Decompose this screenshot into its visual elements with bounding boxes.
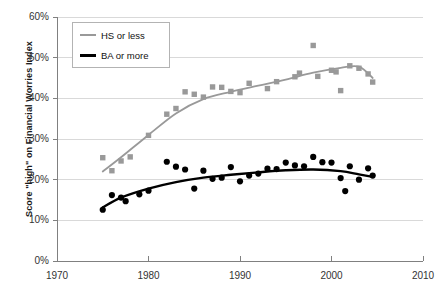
datapoints-ba-or-more: [100, 154, 376, 213]
legend-label-ba-or-more: BA or more: [101, 50, 149, 61]
x-axis-tick-label: 1980: [129, 271, 169, 281]
y-axis-tick-label: 30%: [15, 134, 49, 144]
x-axis-tick-label: 1970: [37, 271, 77, 281]
trendline-ba-or-more: [103, 169, 373, 207]
legend-label-hs-or-less: HS or less: [101, 30, 145, 41]
legend-line-icon-ba-or-more: [80, 54, 96, 57]
y-axis-tick-label: 10%: [15, 215, 49, 225]
y-axis-tick-label: 50%: [15, 53, 49, 63]
legend: HS or less BA or more: [72, 22, 170, 68]
y-axis-tick-label: 20%: [15, 175, 49, 185]
trendline-hs-or-less: [103, 66, 373, 172]
x-axis-tick-label: 1990: [220, 271, 260, 281]
legend-item-ba-or-more: BA or more: [80, 48, 149, 62]
y-axis-tick-label: 40%: [15, 93, 49, 103]
x-axis-tick-label: 2000: [312, 271, 352, 281]
legend-item-hs-or-less: HS or less: [80, 28, 145, 42]
legend-line-icon-hs-or-less: [80, 34, 96, 36]
y-axis-tick-label: 60%: [15, 12, 49, 22]
x-axis-tick-label: 2010: [403, 271, 439, 281]
y-axis-tick-label: 0%: [15, 256, 49, 266]
